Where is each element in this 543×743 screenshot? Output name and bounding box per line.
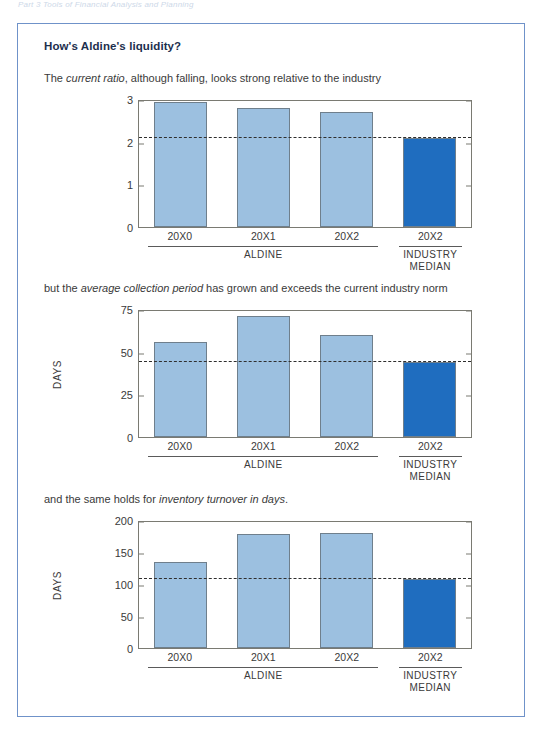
y-tick-mark bbox=[466, 586, 471, 587]
x-tick-label: 20X1 bbox=[251, 651, 276, 663]
y-axis-title bbox=[50, 100, 64, 228]
group-label-line-2: MEDIAN bbox=[403, 471, 457, 483]
y-tick-mark bbox=[139, 396, 144, 397]
bar-industry-median bbox=[403, 362, 455, 437]
x-tick-label: 20X0 bbox=[167, 230, 192, 242]
group-label-line-1: INDUSTRY bbox=[403, 459, 457, 471]
group-label-line-2: MEDIAN bbox=[403, 682, 457, 694]
group-label-line-2: MEDIAN bbox=[403, 261, 457, 273]
x-tick-label: 20X1 bbox=[251, 230, 276, 242]
group-rule-industry bbox=[399, 246, 462, 247]
median-reference-line bbox=[139, 578, 471, 579]
bars-container bbox=[139, 101, 471, 227]
caption-emphasis: inventory turnover in days bbox=[159, 493, 285, 505]
plot-area bbox=[138, 521, 472, 649]
caption-collection-period: but the average collection period has gr… bbox=[44, 282, 448, 294]
group-label-industry-median: INDUSTRYMEDIAN bbox=[403, 249, 457, 273]
caption-post: has grown and exceeds the current indust… bbox=[203, 282, 448, 294]
y-tick-label: 150 bbox=[104, 547, 138, 559]
median-reference-line bbox=[139, 361, 471, 362]
y-tick-mark bbox=[466, 353, 471, 354]
x-tick-label: 20X2 bbox=[418, 230, 443, 242]
group-label-aldine: ALDINE bbox=[244, 670, 283, 682]
x-tick-labels: 20X020X120X220X2 bbox=[138, 440, 472, 454]
y-tick-mark bbox=[139, 618, 144, 619]
bars-container bbox=[139, 522, 471, 648]
bar-aldine bbox=[154, 562, 206, 648]
group-rule-aldine bbox=[148, 246, 378, 247]
y-tick-label: 2 bbox=[104, 137, 138, 149]
bar-aldine bbox=[237, 316, 289, 437]
x-tick-labels: 20X020X120X220X2 bbox=[138, 651, 472, 665]
y-axis-title: DAYS bbox=[50, 521, 64, 649]
caption-post: . bbox=[285, 493, 288, 505]
caption-pre: The bbox=[44, 72, 66, 84]
x-tick-label: 20X0 bbox=[167, 440, 192, 452]
y-tick-label: 100 bbox=[104, 579, 138, 591]
caption-emphasis: current ratio bbox=[66, 72, 125, 84]
caption-current-ratio: The current ratio, although falling, loo… bbox=[44, 72, 381, 84]
group-label-line-1: INDUSTRY bbox=[403, 670, 457, 682]
y-tick-mark bbox=[466, 396, 471, 397]
y-tick-mark bbox=[466, 186, 471, 187]
x-tick-label: 20X2 bbox=[334, 230, 359, 242]
bar-aldine bbox=[154, 342, 206, 437]
caption-emphasis: average collection period bbox=[81, 282, 203, 294]
y-tick-labels: 0255075 bbox=[96, 310, 138, 438]
group-brackets: ALDINEINDUSTRYMEDIAN bbox=[138, 456, 472, 490]
y-axis-title: DAYS bbox=[50, 310, 64, 438]
bar-chart-collection-period: DAYS 0255075 20X020X120X220X2 ALDINEINDU… bbox=[44, 304, 500, 469]
group-brackets: ALDINEINDUSTRYMEDIAN bbox=[138, 246, 472, 280]
y-tick-label: 25 bbox=[104, 389, 138, 401]
y-tick-mark bbox=[139, 522, 144, 523]
group-rule-industry bbox=[399, 456, 462, 457]
group-label-aldine: ALDINE bbox=[244, 249, 283, 261]
group-rule-industry bbox=[399, 667, 462, 668]
y-tick-mark bbox=[139, 186, 144, 187]
x-tick-labels: 20X020X120X220X2 bbox=[138, 230, 472, 244]
group-rule-aldine bbox=[148, 456, 378, 457]
plot-area bbox=[138, 100, 472, 228]
bar-aldine bbox=[237, 534, 289, 648]
group-rule-aldine bbox=[148, 667, 378, 668]
bar-chart-inventory-turnover: DAYS 050100150200 20X020X120X220X2 ALDIN… bbox=[44, 515, 500, 680]
y-tick-mark bbox=[466, 143, 471, 144]
group-label-aldine: ALDINE bbox=[244, 459, 283, 471]
caption-inventory-turnover: and the same holds for inventory turnove… bbox=[44, 493, 288, 505]
y-tick-label: 0 bbox=[104, 222, 138, 234]
bar-chart-current-ratio: 0123 20X020X120X220X2 ALDINEINDUSTRYMEDI… bbox=[44, 94, 500, 259]
page-title: How's Aldine's liquidity? bbox=[44, 40, 181, 52]
x-tick-label: 20X2 bbox=[334, 651, 359, 663]
y-tick-mark bbox=[466, 554, 471, 555]
y-tick-mark bbox=[139, 311, 144, 312]
running-head: Part 3 Tools of Financial Analysis and P… bbox=[18, 0, 194, 9]
y-tick-mark bbox=[466, 101, 471, 102]
group-label-line-1: INDUSTRY bbox=[403, 249, 457, 261]
y-tick-label: 1 bbox=[104, 179, 138, 191]
y-tick-mark bbox=[466, 618, 471, 619]
x-tick-label: 20X2 bbox=[334, 440, 359, 452]
bar-aldine bbox=[320, 335, 372, 437]
group-label-industry-median: INDUSTRYMEDIAN bbox=[403, 459, 457, 483]
x-tick-label: 20X0 bbox=[167, 651, 192, 663]
group-label-industry-median: INDUSTRYMEDIAN bbox=[403, 670, 457, 694]
bar-aldine bbox=[320, 112, 372, 227]
y-tick-mark bbox=[139, 353, 144, 354]
y-tick-labels: 0123 bbox=[96, 100, 138, 228]
x-tick-label: 20X2 bbox=[418, 440, 443, 452]
bar-aldine bbox=[320, 533, 372, 648]
y-tick-mark bbox=[466, 311, 471, 312]
caption-pre: and the same holds for bbox=[44, 493, 159, 505]
content-panel: How's Aldine's liquidity? The current ra… bbox=[17, 23, 525, 717]
y-tick-mark bbox=[139, 586, 144, 587]
y-tick-labels: 050100150200 bbox=[96, 521, 138, 649]
median-reference-line bbox=[139, 137, 471, 138]
y-tick-mark bbox=[466, 522, 471, 523]
y-tick-mark bbox=[139, 143, 144, 144]
bar-aldine bbox=[154, 102, 206, 227]
y-tick-label: 50 bbox=[104, 611, 138, 623]
caption-pre: but the bbox=[44, 282, 81, 294]
y-tick-label: 3 bbox=[104, 94, 138, 106]
y-tick-label: 0 bbox=[104, 643, 138, 655]
y-tick-label: 75 bbox=[104, 304, 138, 316]
